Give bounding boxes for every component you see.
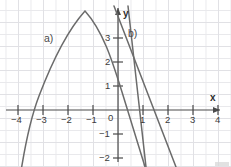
curve-b-line-shallow bbox=[114, 6, 176, 167]
plot-canvas bbox=[0, 0, 231, 167]
x-axis-label: x bbox=[210, 93, 216, 103]
x-tick-label: 4 bbox=[215, 115, 220, 125]
x-tick-label: 3 bbox=[190, 115, 195, 125]
annotation-b: b) bbox=[128, 28, 137, 39]
y-tick-label: −1 bbox=[99, 129, 110, 139]
x-tick-label: −3 bbox=[36, 115, 47, 125]
x-tick-label: 1 bbox=[140, 115, 145, 125]
y-tick-label: 3 bbox=[105, 33, 110, 43]
x-tick-label: −1 bbox=[86, 115, 97, 125]
x-tick-label: −2 bbox=[61, 115, 72, 125]
annotation-a: a) bbox=[44, 33, 53, 44]
origin-label: 0 bbox=[108, 113, 113, 123]
y-tick-label: 2 bbox=[105, 57, 110, 67]
graph-figure: x y 0 −4 −3 −2 −1 1 2 3 4 3 2 1 −1 −2 a)… bbox=[0, 0, 231, 167]
y-axis-label: y bbox=[123, 9, 129, 19]
x-tick-label: −4 bbox=[11, 115, 22, 125]
corner-artifact bbox=[215, 162, 229, 166]
y-axis bbox=[113, 8, 123, 162]
y-tick-label: 1 bbox=[105, 81, 110, 91]
x-tick-label: 2 bbox=[165, 115, 170, 125]
y-tick-label: −2 bbox=[99, 153, 110, 163]
